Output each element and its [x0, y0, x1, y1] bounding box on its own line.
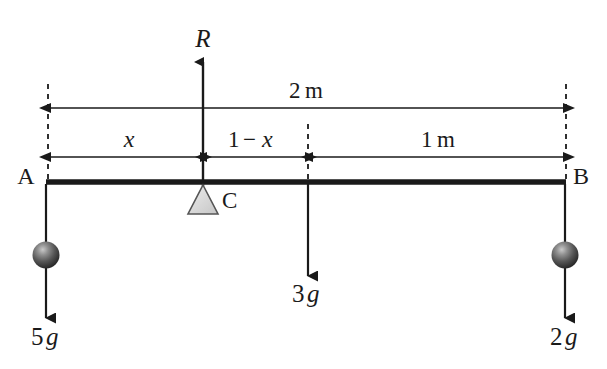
label-point-a: A [17, 163, 35, 189]
label-total-length-number: 2 [289, 78, 301, 103]
label-middle-segment: 1 − x [228, 126, 273, 152]
label-point-c: C [222, 188, 237, 213]
label-left-weight-number: 5 [31, 323, 44, 350]
label-middle-weight-g: g [307, 280, 320, 307]
label-middle-weight: 3 g [292, 280, 320, 307]
label-right-weight-number: 2 [550, 323, 563, 350]
label-right-weight: 2 g [550, 323, 578, 350]
label-right-weight-g: g [565, 323, 578, 350]
physics-diagram: R A B C 2 m x 1 − x 1 m 5 g 3 g [0, 0, 607, 369]
fulcrum-triangle [188, 185, 218, 214]
label-left-segment: x [123, 126, 135, 152]
left-mass-sphere [33, 242, 60, 269]
diagram-canvas: R A B C 2 m x 1 − x 1 m 5 g 3 g [0, 0, 607, 369]
label-right-segment-number: 1 [421, 127, 433, 152]
label-middle-segment-x: x [261, 126, 273, 152]
fulcrum-shape [188, 185, 218, 214]
label-left-weight: 5 g [31, 323, 59, 350]
label-total-length: 2 m [289, 78, 323, 103]
label-middle-weight-number: 3 [292, 280, 305, 307]
right-load-group [552, 184, 579, 318]
label-right-segment: 1 m [421, 127, 455, 152]
label-total-length-unit: m [305, 78, 323, 103]
label-middle-segment-one: 1 [228, 127, 240, 152]
label-right-segment-unit: m [437, 127, 455, 152]
label-left-weight-g: g [46, 323, 59, 350]
label-point-b: B [573, 163, 589, 189]
right-mass-sphere [552, 242, 579, 269]
label-reaction-force: R [194, 25, 210, 52]
label-middle-segment-minus: − [243, 127, 256, 152]
left-load-group [33, 184, 60, 318]
